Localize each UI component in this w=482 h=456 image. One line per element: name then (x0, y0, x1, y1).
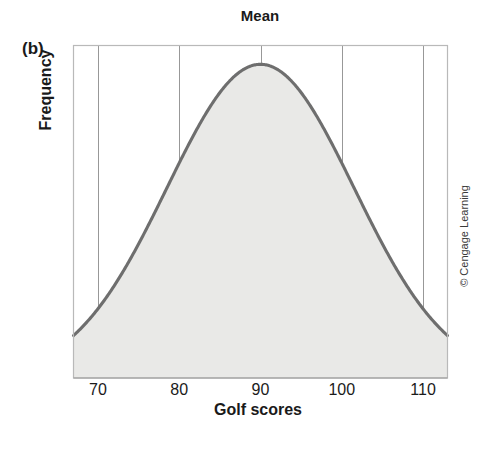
x-tick-label-70: 70 (74, 381, 122, 399)
distribution-fill-area (74, 64, 448, 378)
x-tick-label-100: 100 (318, 381, 366, 399)
x-tick-label-110: 110 (399, 381, 447, 399)
x-tick-label-80: 80 (155, 381, 203, 399)
x-tick-label-90: 90 (237, 381, 285, 399)
figure-panel-b: (b) Mean Frequency Golf scores © Cengage… (0, 0, 482, 456)
